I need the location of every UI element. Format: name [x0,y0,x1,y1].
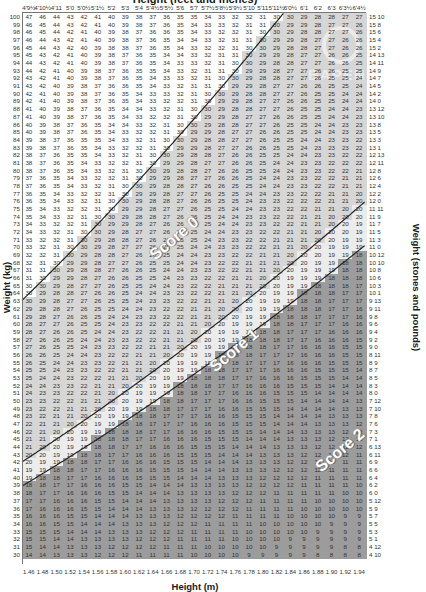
weight-kg-label: 85 [0,128,20,136]
weight-kg-label: 41 [0,466,20,474]
weight-st-label: 7 12 [369,397,381,405]
weight-st-label: 12 6 [369,174,381,182]
weight-kg-label: 80 [0,167,20,175]
weight-kg-label: 87 [0,113,20,121]
weight-st-label: 7 3 [369,428,378,436]
weight-st-label: 10 12 [369,251,384,259]
weight-st-label: 10 1 [369,289,381,297]
weight-kg-label: 35 [0,512,20,520]
weight-st-label: 9 2 [369,336,378,344]
y-axis-title: Weight (kg) [1,244,12,332]
weight-st-label: 14 2 [369,90,381,98]
weight-kg-label: 91 [0,82,20,90]
weight-kg-label: 47 [0,420,20,428]
weight-st-label: 9 0 [369,343,378,351]
weight-st-label: 4 12 [369,543,381,551]
weight-kg-label: 45 [0,435,20,443]
weight-st-label: 9 11 [369,305,381,313]
weight-kg-label: 100 [0,13,20,21]
bmi-18.5-boundary-line [22,246,365,486]
weight-st-label: 8 7 [369,366,378,374]
weight-st-label: 13 1 [369,144,381,152]
weight-st-label: 13 12 [369,105,384,113]
weight-st-label: 5 1 [369,535,378,543]
weight-st-label: 12 0 [369,197,381,205]
weight-st-label: 15 2 [369,44,381,52]
weight-kg-label: 36 [0,505,20,513]
weight-st-label: 13 5 [369,128,381,136]
weight-st-label: 11 9 [369,213,381,221]
weight-kg-label: 98 [0,28,20,36]
weight-st-label: 12 11 [369,159,384,167]
weight-st-label: 14 11 [369,59,384,67]
weight-st-label: 5 7 [369,512,378,520]
weight-st-label: 6 13 [369,443,381,451]
weight-st-label: 7 1 [369,435,378,443]
weight-st-label: 5 3 [369,528,378,536]
weight-st-label: 6 4 [369,474,378,482]
weight-kg-label: 49 [0,405,20,413]
weight-kg-label: 82 [0,151,20,159]
weight-st-label: 12 8 [369,167,381,175]
weight-kg-label: 40 [0,474,20,482]
weight-st-label: 14 9 [369,67,381,75]
weight-st-label: 13 3 [369,136,381,144]
weight-st-label: 7 10 [369,405,381,413]
weight-kg-label: 79 [0,174,20,182]
weight-st-label: 5 5 [369,520,378,528]
weight-kg-label: 58 [0,336,20,344]
weight-st-label: 10 8 [369,266,381,274]
weight-st-label: 11 11 [369,205,384,213]
weight-st-label: 8 0 [369,389,378,397]
weight-st-label: 6 6 [369,466,378,474]
weight-st-label: 15 10 [369,13,384,21]
weight-kg-label: 44 [0,443,20,451]
weight-kg-label: 53 [0,374,20,382]
weight-st-label: 13 8 [369,121,381,129]
weight-kg-label: 71 [0,236,20,244]
weight-kg-label: 95 [0,51,20,59]
weight-st-label: 9 8 [369,313,378,321]
weight-st-label: 7 6 [369,420,378,428]
weight-kg-label: 96 [0,44,20,52]
weight-kg-label: 97 [0,36,20,44]
weight-st-label: 10 6 [369,274,381,282]
weight-kg-label: 34 [0,520,20,528]
weight-st-label: 13 10 [369,113,384,121]
weight-kg-label: 99 [0,21,20,29]
weight-kg-label: 54 [0,366,20,374]
weight-kg-label: 42 [0,458,20,466]
weight-st-label: 5 12 [369,497,381,505]
weight-st-label: 11 5 [369,228,381,236]
weight-kg-label: 84 [0,136,20,144]
weight-st-label: 6 11 [369,451,381,459]
weight-kg-label: 78 [0,182,20,190]
weight-st-label: 8 9 [369,359,378,367]
weight-st-label: 14 13 [369,51,384,59]
weight-st-label: 12 13 [369,151,384,159]
left-axis-line [22,12,23,564]
weight-kg-label: 55 [0,359,20,367]
top-axis-line [22,12,366,13]
weight-st-label: 14 7 [369,74,381,82]
weight-kg-label: 72 [0,228,20,236]
weight-kg-label: 38 [0,489,20,497]
weight-kg-label: 89 [0,97,20,105]
y-axis-right-title: Weight (stones and pounds) [411,221,422,355]
weight-st-label: 4 10 [369,551,381,559]
weight-kg-label: 73 [0,220,20,228]
weight-kg-label: 31 [0,543,20,551]
weight-kg-label: 37 [0,497,20,505]
weight-kg-label: 33 [0,528,20,536]
height-ft-label: 6'4½ [350,4,368,11]
weight-kg-label: 74 [0,213,20,221]
weight-kg-label: 48 [0,412,20,420]
weight-st-label: 9 4 [369,328,378,336]
bmi-chart: Height (feet and inches) BAPEN 474644434… [0,0,426,592]
weight-st-label: 15 4 [369,36,381,44]
weight-kg-label: 56 [0,351,20,359]
weight-kg-label: 46 [0,428,20,436]
weight-st-label: 15 6 [369,28,381,36]
weight-st-label: 5 9 [369,505,378,513]
weight-kg-label: 32 [0,535,20,543]
